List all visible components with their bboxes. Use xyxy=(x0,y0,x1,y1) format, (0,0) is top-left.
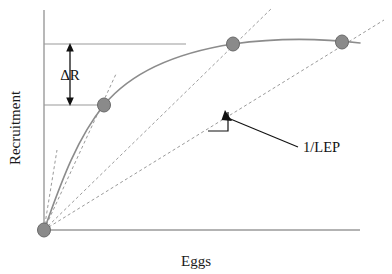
delta-r-label: ΔR xyxy=(60,67,80,83)
dashed-line-tangent-origin xyxy=(44,150,57,230)
dashed-line-through-high-point xyxy=(44,20,384,230)
marker-point-low xyxy=(98,98,111,112)
marker-origin xyxy=(38,223,51,237)
recruitment-curve xyxy=(44,39,360,230)
marker-point-mid xyxy=(227,37,240,51)
lep-leader-arrowhead xyxy=(222,110,233,121)
lep-leader-group xyxy=(222,110,299,147)
lep-label: 1/LEP xyxy=(303,139,340,155)
stock-recruitment-chart: ΔR 1/LEP Eggs Recruitment xyxy=(0,0,392,274)
x-axis-title: Eggs xyxy=(181,253,211,269)
dashed-line-through-low-point xyxy=(44,74,116,230)
y-axis-title: Recruitment xyxy=(7,90,23,165)
lep-leader-line xyxy=(228,118,298,147)
figure-root: ΔR 1/LEP Eggs Recruitment xyxy=(0,0,392,274)
axes-group xyxy=(44,10,360,230)
marker-point-high xyxy=(336,35,349,49)
